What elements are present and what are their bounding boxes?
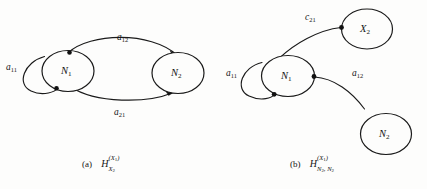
node-label-n1b: N1 bbox=[281, 71, 292, 83]
caption-a-tag: (a) bbox=[82, 159, 92, 169]
port-dot-n1b-right bbox=[312, 74, 317, 79]
caption-b-expression: H (X1) N2, N2 bbox=[310, 158, 317, 169]
edge-a21-path bbox=[70, 87, 172, 101]
caption-b-base: H bbox=[310, 158, 317, 169]
edge-label-c21b: c21 bbox=[305, 13, 316, 23]
port-dot-n1-top bbox=[67, 50, 72, 55]
figure-root: N1 N2 a11 a12 a21 N1 X2 N2 a11 c21 a12 (… bbox=[0, 0, 427, 189]
edge-label-a11: a11 bbox=[6, 63, 17, 73]
caption-panel-a: (a) H (X1) X2 bbox=[82, 158, 108, 169]
caption-b-tag: (b) bbox=[290, 159, 301, 169]
caption-a-subscript: X2 bbox=[108, 165, 114, 173]
edge-c21-path bbox=[279, 28, 341, 59]
caption-panel-b: (b) H (X1) N2, N2 bbox=[290, 158, 317, 169]
node-label-x2b: X2 bbox=[360, 24, 370, 36]
node-label-n2: N2 bbox=[171, 68, 182, 80]
port-dot-x2b-left bbox=[339, 25, 344, 30]
port-dot-n1b-bottom-left bbox=[272, 92, 277, 97]
node-label-n2b: N2 bbox=[379, 129, 390, 141]
caption-a-superscript: (X1) bbox=[108, 154, 119, 162]
edge-label-a11b: a11 bbox=[226, 69, 237, 79]
edge-label-a12b: a12 bbox=[352, 69, 363, 79]
caption-b-subscript: N2, N2 bbox=[317, 165, 334, 173]
edge-label-a21: a21 bbox=[114, 108, 125, 118]
caption-a-expression: H (X1) X2 bbox=[101, 158, 108, 169]
edge-label-a12: a12 bbox=[117, 33, 128, 43]
caption-b-superscript: (X1) bbox=[317, 154, 328, 162]
port-dot-n1-bottom-left bbox=[54, 86, 59, 91]
edge-a12b-path bbox=[315, 77, 365, 109]
node-label-n1: N1 bbox=[61, 66, 72, 78]
